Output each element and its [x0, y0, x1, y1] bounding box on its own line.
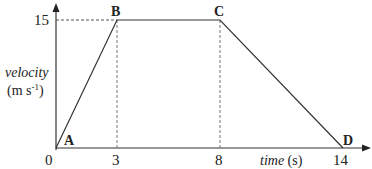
tick-x-3: 3 — [112, 152, 120, 168]
y-unit-sup: -1 — [32, 82, 40, 92]
tick-x-0: 0 — [45, 152, 53, 168]
point-label-c: C — [214, 4, 224, 19]
tick-x-8: 8 — [215, 152, 223, 168]
point-label-d: D — [343, 133, 353, 148]
point-label-a: A — [64, 133, 75, 148]
velocity-time-graph: 15 0 3 8 14 A B C D velocity (m s-1) tim… — [0, 0, 372, 169]
y-axis-label: velocity — [5, 65, 49, 80]
x-label-time: time — [260, 153, 284, 168]
y-unit-close: ) — [39, 83, 44, 99]
velocity-line — [56, 20, 343, 148]
tick-x-14: 14 — [333, 152, 349, 168]
point-label-b: B — [111, 4, 120, 19]
y-unit-open: (m s — [7, 83, 32, 99]
x-axis-label: time (s) — [260, 153, 303, 169]
y-axis-unit: (m s-1) — [7, 82, 44, 99]
x-label-unit: (s) — [284, 153, 303, 169]
y-axis-arrow-icon — [53, 3, 60, 12]
tick-y-15: 15 — [34, 12, 49, 28]
x-axis-arrow-icon — [362, 145, 371, 152]
